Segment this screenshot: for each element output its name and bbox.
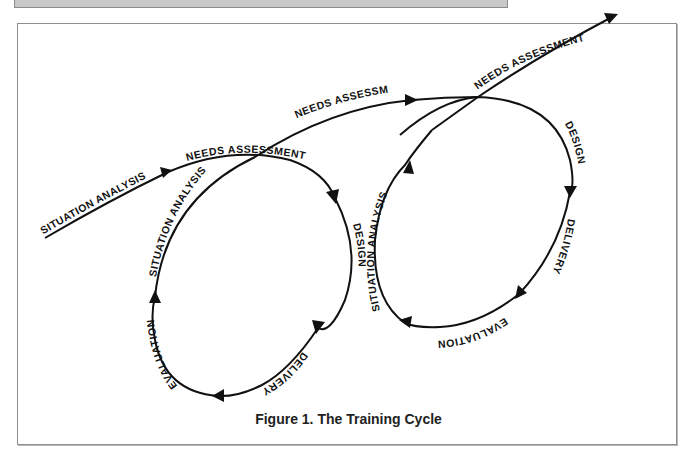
arrow-icon — [149, 290, 161, 303]
arrow-icon — [399, 316, 412, 328]
arrow-icon — [405, 94, 418, 106]
arrow-icon — [312, 320, 325, 334]
label-entry-situation-analysis: SITUATION ANALYSIS — [38, 169, 148, 236]
arrow-icon — [604, 13, 618, 24]
label-cycle1-evaluation: EVALUATION — [144, 319, 179, 392]
label-cycle2-delivery: DELIVERY — [551, 218, 578, 276]
label-cycle2-design: DESIGN — [563, 119, 588, 165]
figure-caption: Figure 1. The Training Cycle — [0, 411, 697, 427]
arrow-icon — [160, 167, 172, 178]
stage-labels: SITUATION ANALYSIS NEEDS ASSESSMENT DESI… — [0, 0, 588, 398]
spiral-path — [45, 17, 612, 396]
label-bridge-needs-assessment: NEEDS ASSESSMENT — [0, 0, 389, 120]
arrow-icon — [403, 160, 414, 174]
training-cycle-diagram: SITUATION ANALYSIS NEEDS ASSESSMENT DESI… — [0, 0, 697, 461]
label-cycle2-situation-analysis: SITUATION ANALYSIS — [364, 189, 389, 313]
label-cycle1-delivery: DELIVERY — [260, 351, 310, 399]
label-cycle1-situation-analysis: SITUATION ANALYSIS — [146, 164, 208, 278]
arrow-icon — [212, 389, 224, 402]
arrow-icon — [564, 186, 577, 198]
label-cycle2-needs-assessment: NEEDS ASSESSMENT — [472, 31, 586, 91]
